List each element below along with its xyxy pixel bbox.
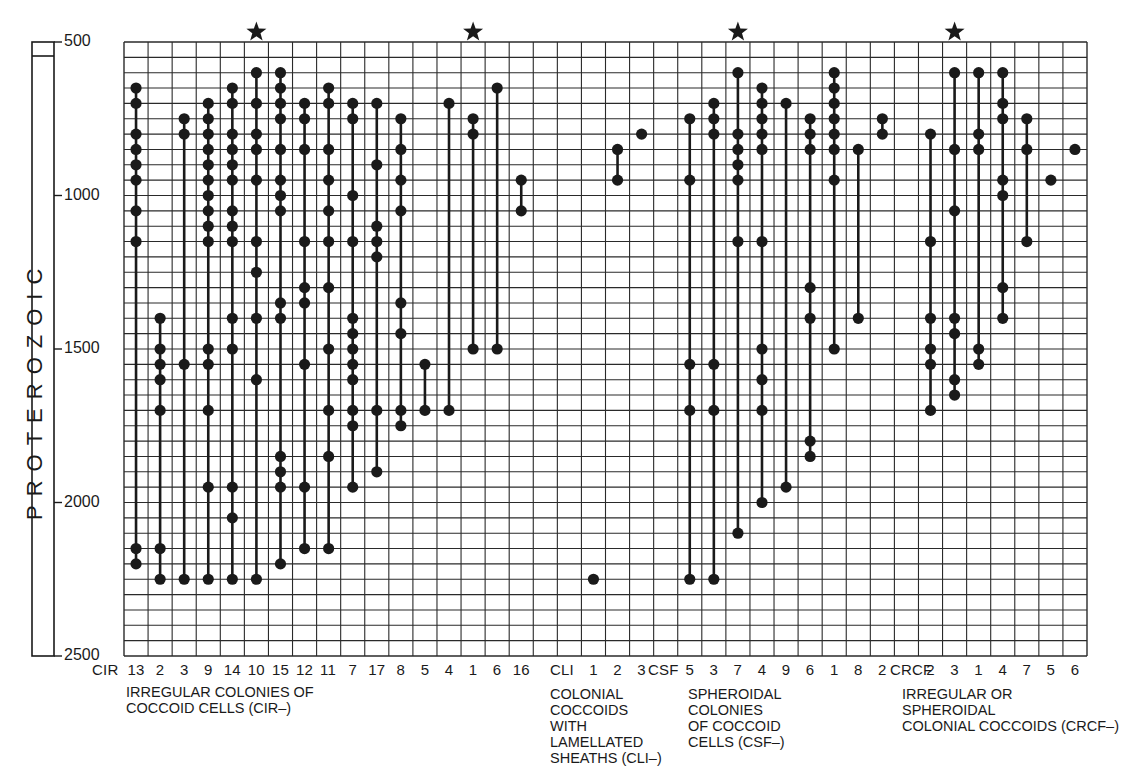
occurrence-dot: [395, 328, 406, 339]
group-label-csf: SPHEROIDALCOLONIESOF COCCOIDCELLS (CSF–): [688, 686, 785, 750]
occurrence-dot: [227, 82, 238, 93]
occurrence-dot: [130, 175, 141, 186]
occurrence-dot: [732, 144, 743, 155]
group-label-line: CELLS (CSF–): [688, 734, 785, 750]
series-label: 11: [320, 661, 336, 678]
occurrence-dot: [949, 67, 960, 78]
occurrence-dot: [395, 297, 406, 308]
group-label-line: WITH: [550, 718, 662, 734]
occurrence-dot: [756, 113, 767, 124]
occurrence-dot: [395, 144, 406, 155]
star-icon: [728, 22, 748, 41]
occurrence-dot: [877, 129, 888, 140]
occurrence-dot: [684, 405, 695, 416]
occurrence-dot: [1069, 144, 1080, 155]
occurrence-dot: [227, 159, 238, 170]
occurrence-dot: [347, 313, 358, 324]
group-label-cir: IRREGULAR COLONIES OFCOCCOID CELLS (CIR–…: [126, 684, 314, 716]
occurrence-dot: [756, 374, 767, 385]
occurrence-dot: [588, 574, 599, 585]
occurrence-dot: [130, 144, 141, 155]
occurrence-dot: [347, 420, 358, 431]
occurrence-dot: [805, 451, 816, 462]
occurrence-dot: [997, 175, 1008, 186]
occurrence-dot: [275, 175, 286, 186]
occurrence-dot: [227, 236, 238, 247]
occurrence-dot: [130, 98, 141, 109]
occurrence-dot: [467, 129, 478, 140]
group-label-line: IRREGULAR OR: [902, 686, 1119, 702]
occurrence-dot: [371, 466, 382, 477]
occurrence-dot: [829, 175, 840, 186]
occurrence-dot: [829, 67, 840, 78]
occurrence-dot: [155, 543, 166, 554]
occurrence-dot: [251, 313, 262, 324]
occurrence-dot: [925, 313, 936, 324]
occurrence-dot: [251, 175, 262, 186]
group-label-line: COCCOID CELLS (CIR–): [126, 700, 314, 716]
series-label: 5: [685, 661, 694, 678]
occurrence-dot: [997, 113, 1008, 124]
occurrence-dot: [323, 144, 334, 155]
occurrence-dot: [227, 512, 238, 523]
occurrence-dot: [756, 144, 767, 155]
occurrence-dot: [179, 574, 190, 585]
occurrence-dot: [780, 482, 791, 493]
occurrence-dot: [299, 482, 310, 493]
occurrence-dot: [829, 113, 840, 124]
series-label: 2: [613, 661, 622, 678]
occurrence-dot: [130, 543, 141, 554]
occurrence-dot: [227, 129, 238, 140]
occurrence-dot: [203, 129, 214, 140]
series-label: 12: [296, 661, 313, 678]
occurrence-dot: [347, 236, 358, 247]
occurrence-dot: [203, 175, 214, 186]
occurrence-dot: [419, 405, 430, 416]
occurrence-dot: [130, 82, 141, 93]
occurrence-dot: [347, 482, 358, 493]
occurrence-dot: [371, 159, 382, 170]
series-label: 7: [1023, 661, 1032, 678]
occurrence-dot: [997, 313, 1008, 324]
occurrence-dot: [756, 236, 767, 247]
occurrence-dot: [708, 405, 719, 416]
occurrence-dot: [756, 343, 767, 354]
occurrence-dot: [203, 574, 214, 585]
occurrence-dot: [467, 343, 478, 354]
occurrence-dot: [395, 405, 406, 416]
occurrence-dot: [732, 67, 743, 78]
occurrence-dot: [805, 129, 816, 140]
occurrence-dot: [323, 205, 334, 216]
group-label-line: COLONIES: [688, 702, 785, 718]
occurrence-dot: [323, 543, 334, 554]
occurrence-dot: [323, 405, 334, 416]
occurrence-dot: [756, 82, 767, 93]
occurrence-dot: [323, 451, 334, 462]
occurrence-dot: [299, 144, 310, 155]
occurrence-dot: [299, 543, 310, 554]
y-tick-label: 500: [64, 32, 91, 50]
series-label: 6: [806, 661, 815, 678]
occurrence-dot: [275, 558, 286, 569]
series-label: 4: [998, 661, 1007, 678]
occurrence-dot: [708, 98, 719, 109]
occurrence-dot: [925, 129, 936, 140]
y-tick-label: 1000: [64, 186, 100, 204]
series-label: 2: [878, 661, 887, 678]
occurrence-dot: [179, 359, 190, 370]
star-icon: [463, 22, 483, 41]
occurrence-dot: [299, 297, 310, 308]
occurrence-dot: [949, 144, 960, 155]
occurrence-dot: [443, 405, 454, 416]
occurrence-dot: [323, 236, 334, 247]
series-label: 4: [758, 661, 767, 678]
occurrence-dot: [756, 129, 767, 140]
occurrence-dot: [155, 359, 166, 370]
series-label: 5: [421, 661, 430, 678]
occurrence-dot: [371, 405, 382, 416]
occurrence-dot: [829, 129, 840, 140]
occurrence-dot: [829, 343, 840, 354]
occurrence-dot: [1021, 113, 1032, 124]
occurrence-dot: [275, 98, 286, 109]
group-label-line: COLONIAL: [550, 686, 662, 702]
